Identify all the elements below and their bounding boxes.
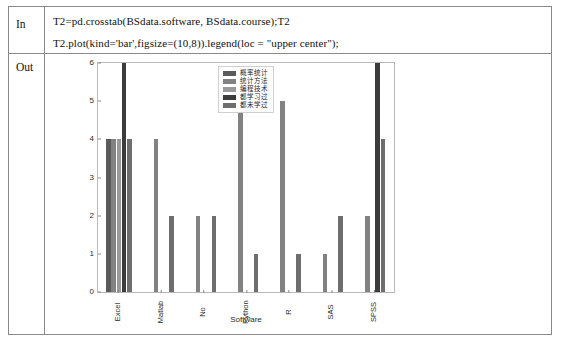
x-tick-mark [374,290,375,293]
legend-item-2: 编程技术 [223,86,268,93]
legend-label: 都学习过 [240,94,268,101]
bar-Excel-编程技术 [117,139,122,292]
y-tick-6: 6 [90,59,98,67]
x-tick-label: R [285,309,293,314]
x-tick-mark [289,290,290,293]
bar-Excel-统计方法 [111,139,116,292]
x-tick-Matlab: Matlab [150,294,173,316]
bar-SPSS-都学习过 [375,63,380,292]
y-tick-mark [98,253,101,254]
y-tick-5: 5 [90,97,98,105]
x-tick-SAS: SAS [324,294,339,316]
y-tick-mark [98,101,101,102]
legend-swatch-icon [223,79,236,84]
output-prompt-label: Out [16,61,33,73]
x-tick-R: R [286,294,291,316]
output-cell-gutter: Out [9,54,45,334]
plot-frame: 0123456 概率统计统计方法编程技术都学习过都未学过 [97,62,395,293]
legend-item-4: 都未学过 [223,102,268,109]
y-tick-mark [98,63,101,64]
x-axis-label: Software [97,315,395,324]
x-tick-mark [331,290,332,293]
bar-Excel-都学习过 [122,63,127,292]
bar-No-统计方法 [196,216,201,292]
bar-No-都未学过 [212,216,217,292]
input-cell-row: In T2=pd.crosstab(BSdata.software, BSdat… [9,7,551,54]
bar-Python-统计方法 [238,101,243,292]
legend-swatch-icon [223,71,236,76]
x-tick-Excel: Excel [109,294,127,316]
legend-item-3: 都学习过 [223,94,268,101]
bar-SPSS-统计方法 [365,216,370,292]
y-tick-4: 4 [90,135,98,143]
legend-swatch-icon [223,87,236,92]
y-tick-mark [98,177,101,178]
legend-label: 统计方法 [240,78,268,85]
bar-Matlab-都未学过 [169,216,174,292]
bar-Python-都未学过 [254,254,259,292]
y-tick-3: 3 [90,174,98,182]
bar-R-统计方法 [280,101,285,292]
x-tick-mark [118,290,119,293]
output-cell-body: 0123456 概率统计统计方法编程技术都学习过都未学过 ExcelMatlab… [45,54,551,334]
x-tick-SPSS: SPSS [364,294,384,316]
x-tick-mark [203,290,204,293]
bar-Matlab-统计方法 [154,139,159,292]
code-line-2[interactable]: T2.plot(kind='bar',figsize=(10,8)).legen… [53,36,551,50]
x-tick-mark [161,290,162,293]
bar-SPSS-都未学过 [381,139,386,292]
legend-label: 都未学过 [240,102,268,109]
input-prompt-label: In [16,18,26,30]
bar-R-都未学过 [296,254,301,292]
bar-chart-figure: 0123456 概率统计统计方法编程技术都学习过都未学过 ExcelMatlab… [83,58,395,330]
legend-swatch-icon [223,103,236,108]
y-tick-mark [98,292,101,293]
legend-item-0: 概率统计 [223,70,268,77]
legend-swatch-icon [223,95,236,100]
x-axis-ticks: ExcelMatlabNoPythonRSASSPSS [97,294,395,330]
y-tick-mark [98,215,101,216]
notebook-container: In T2=pd.crosstab(BSdata.software, BSdat… [8,6,552,335]
x-tick-Python: Python [234,294,257,316]
chart-legend: 概率统计统计方法编程技术都学习过都未学过 [218,66,274,113]
output-cell-row: Out 0123456 概率统计统计方法编程技术都学习过都未学过 ExcelMa… [9,54,551,334]
bar-SAS-都未学过 [338,216,343,292]
x-tick-mark [246,290,247,293]
code-line-1[interactable]: T2=pd.crosstab(BSdata.software, BSdata.c… [53,14,551,28]
bar-SAS-统计方法 [323,254,328,292]
legend-label: 编程技术 [240,86,268,93]
y-tick-1: 1 [90,250,98,258]
legend-item-1: 统计方法 [223,78,268,85]
input-cell-body[interactable]: T2=pd.crosstab(BSdata.software, BSdata.c… [45,7,551,53]
x-tick-No: No [199,294,209,316]
y-tick-2: 2 [90,212,98,220]
bar-Excel-概率统计 [106,139,111,292]
input-cell-gutter: In [9,7,45,53]
legend-label: 概率统计 [240,70,268,77]
y-tick-mark [98,139,101,140]
bar-Excel-都未学过 [127,139,132,292]
